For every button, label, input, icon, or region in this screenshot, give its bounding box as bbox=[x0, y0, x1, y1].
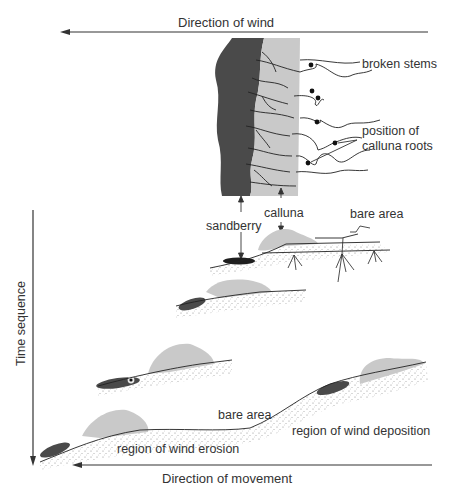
bare-area-top-label: bare area bbox=[350, 208, 404, 221]
wind-erosion-label: region of wind erosion bbox=[117, 443, 239, 456]
calluna-roots-label-line1: position of bbox=[362, 125, 419, 138]
wind-deposition-label: region of wind deposition bbox=[292, 425, 430, 438]
stage-1-section bbox=[210, 226, 390, 282]
sandberry-label: sandberry bbox=[206, 220, 262, 233]
movement-direction-label: Direction of movement bbox=[162, 472, 292, 485]
movement-direction-arrow bbox=[72, 462, 432, 468]
plan-view bbox=[215, 38, 380, 196]
time-sequence-label: Time sequence bbox=[14, 281, 28, 366]
stage-2-section bbox=[176, 280, 306, 319]
calluna-label: calluna bbox=[264, 207, 304, 220]
bare-area-label: bare area bbox=[218, 409, 272, 422]
stage-3-section bbox=[96, 344, 232, 396]
broken-stems-label: broken stems bbox=[362, 58, 437, 71]
time-sequence-arrow bbox=[30, 210, 36, 466]
wind-direction-label: Direction of wind bbox=[178, 16, 274, 29]
calluna-roots-label-line2: calluna roots bbox=[362, 140, 433, 153]
